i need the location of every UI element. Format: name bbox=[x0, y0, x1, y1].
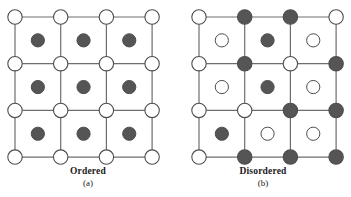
interstitial-atom-filled bbox=[31, 127, 44, 140]
interstitial-atom-open bbox=[307, 34, 320, 47]
lattice-site-filled bbox=[238, 10, 252, 24]
lattice-site-filled bbox=[329, 57, 343, 71]
interstitial-atom-filled bbox=[123, 34, 136, 47]
caption-letter-disordered: (b) bbox=[175, 178, 351, 188]
lattice-site-filled bbox=[238, 57, 252, 71]
lattice-site-open bbox=[99, 103, 113, 117]
lattice-site-filled bbox=[283, 150, 297, 164]
interstitial-atom-filled bbox=[123, 80, 136, 93]
lattice-site-open bbox=[329, 10, 343, 24]
lattice-site-open bbox=[145, 150, 159, 164]
interstitial-atom-filled bbox=[77, 127, 90, 140]
lattice-site-open bbox=[54, 10, 68, 24]
interstitial-atom-filled bbox=[77, 34, 90, 47]
lattice-site-open bbox=[99, 10, 113, 24]
lattice-site-open bbox=[145, 57, 159, 71]
lattice-site-open bbox=[54, 150, 68, 164]
lattice-site-filled bbox=[329, 103, 343, 117]
interstitial-atom-open bbox=[215, 34, 228, 47]
interstitial-atom-open bbox=[261, 127, 274, 140]
lattice-diagram-disordered bbox=[175, 0, 351, 165]
caption-title-ordered: Ordered bbox=[0, 166, 176, 177]
interstitial-atom-open bbox=[215, 80, 228, 93]
interstitial-atom-filled bbox=[261, 80, 274, 93]
interstitial-atom-open bbox=[307, 127, 320, 140]
lattice-site-filled bbox=[283, 10, 297, 24]
interstitial-atom-filled bbox=[31, 80, 44, 93]
interstitial-atoms bbox=[215, 34, 320, 141]
interstitial-atoms bbox=[31, 34, 136, 141]
lattice-site-open bbox=[192, 10, 206, 24]
lattice-site-open bbox=[8, 10, 22, 24]
interstitial-atom-filled bbox=[123, 127, 136, 140]
lattice-site-open bbox=[145, 103, 159, 117]
lattice-figure: Ordered (a) Disordered (b) bbox=[0, 0, 351, 197]
lattice-site-open bbox=[238, 103, 252, 117]
caption-title-disordered: Disordered bbox=[175, 166, 351, 177]
caption-letter-ordered: (a) bbox=[0, 178, 176, 188]
panel-disordered: Disordered (b) bbox=[175, 0, 351, 197]
lattice-site-open bbox=[99, 57, 113, 71]
lattice-site-open bbox=[54, 57, 68, 71]
lattice-site-open bbox=[8, 103, 22, 117]
interstitial-atom-filled bbox=[215, 127, 228, 140]
lattice-site-open bbox=[54, 103, 68, 117]
lattice-site-open bbox=[145, 10, 159, 24]
lattice-site-open bbox=[192, 150, 206, 164]
interstitial-atom-filled bbox=[261, 34, 274, 47]
lattice-site-open bbox=[8, 150, 22, 164]
lattice-diagram-ordered bbox=[0, 0, 176, 165]
lattice-site-open bbox=[283, 57, 297, 71]
lattice-site-filled bbox=[283, 103, 297, 117]
lattice-site-open bbox=[192, 103, 206, 117]
lattice-site-open bbox=[192, 57, 206, 71]
interstitial-atom-filled bbox=[31, 34, 44, 47]
panel-ordered: Ordered (a) bbox=[0, 0, 176, 197]
lattice-site-open bbox=[8, 57, 22, 71]
lattice-site-open bbox=[99, 150, 113, 164]
interstitial-atom-filled bbox=[77, 80, 90, 93]
interstitial-atom-open bbox=[307, 80, 320, 93]
lattice-site-filled bbox=[238, 150, 252, 164]
lattice-site-filled bbox=[329, 150, 343, 164]
